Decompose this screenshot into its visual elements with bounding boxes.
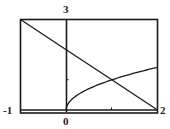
x-max-label: 2 <box>160 105 166 116</box>
graph-plot <box>0 0 170 129</box>
x-zero-label: 0 <box>63 116 69 127</box>
sqrt-curve-series <box>66 67 157 110</box>
y-max-label: 3 <box>63 4 69 15</box>
x-min-label: -1 <box>3 105 12 116</box>
line-series <box>21 20 158 111</box>
